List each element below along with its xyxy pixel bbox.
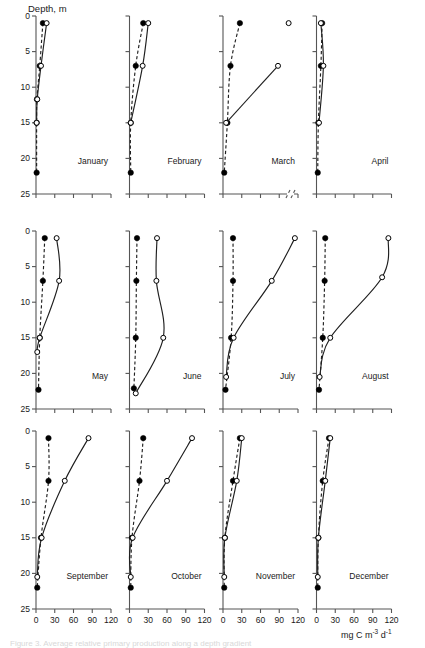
- panel-july: [219, 231, 298, 413]
- y-tick-label: 25: [21, 604, 30, 614]
- series-line-light-bottle: [37, 23, 47, 123]
- series-line-light-bottle: [136, 238, 164, 393]
- data-point-open: [276, 63, 281, 68]
- series-line-light-bottle: [320, 238, 389, 377]
- x-tick-label: 60: [349, 615, 358, 625]
- series-group-february: [128, 20, 151, 175]
- data-point-open: [128, 574, 133, 579]
- data-point-open: [292, 236, 297, 241]
- x-tick-label: 120: [104, 615, 118, 625]
- series-group-december: [315, 435, 333, 590]
- x-tick-label: 120: [384, 615, 398, 625]
- series-group-september: [35, 435, 91, 590]
- panel-november: [219, 431, 298, 613]
- series-line-dark-bottle: [224, 438, 240, 588]
- data-point-open: [321, 63, 326, 68]
- data-point-filled: [316, 387, 321, 392]
- series-line-light-bottle: [318, 438, 331, 577]
- x-tick-label: 30: [50, 615, 59, 625]
- data-point-filled: [237, 20, 242, 25]
- y-tick-label: 0: [25, 11, 30, 21]
- axis-break-gap: [287, 193, 294, 196]
- data-point-filled: [137, 478, 142, 483]
- data-point-open: [234, 478, 239, 483]
- data-point-filled: [46, 478, 51, 483]
- series-line-dark-bottle: [37, 438, 49, 588]
- y-tick-label: 20: [21, 568, 30, 578]
- x-tick-label: 30: [331, 615, 340, 625]
- series-group-october: [128, 435, 194, 590]
- data-point-open: [35, 97, 40, 102]
- data-point-open: [328, 436, 333, 441]
- data-point-filled: [40, 278, 45, 283]
- data-point-filled: [315, 585, 320, 590]
- panel-june: [126, 231, 205, 413]
- data-point-open: [86, 436, 91, 441]
- x-tick-label: 60: [69, 615, 78, 625]
- data-point-filled: [322, 278, 327, 283]
- data-point-filled: [42, 235, 47, 240]
- series-line-dark-bottle: [131, 438, 144, 588]
- series-group-march: [222, 20, 292, 175]
- x-tick-label: 90: [88, 615, 97, 625]
- x-tick-label: 90: [181, 615, 190, 625]
- data-point-open: [222, 535, 227, 540]
- data-point-open: [380, 275, 385, 280]
- x-tick-label: 60: [256, 615, 265, 625]
- series-line-light-bottle: [224, 438, 242, 577]
- x-tick-label: 120: [197, 615, 211, 625]
- data-point-open: [140, 63, 145, 68]
- data-point-open: [44, 21, 49, 26]
- y-tick-label: 15: [21, 332, 30, 342]
- series-line-dark-bottle: [319, 238, 325, 390]
- data-point-open: [224, 120, 229, 125]
- data-point-open: [146, 21, 151, 26]
- series-line-light-bottle: [226, 66, 278, 123]
- data-point-filled: [128, 585, 133, 590]
- series-line-dark-bottle: [39, 238, 45, 390]
- y-tick-label: 15: [21, 117, 30, 127]
- panel-december: [313, 431, 392, 613]
- y-tick-label: 0: [25, 226, 30, 236]
- panel-label-april: April: [371, 156, 388, 166]
- data-point-filled: [46, 435, 51, 440]
- panel-april: [313, 16, 392, 198]
- data-point-filled: [315, 170, 320, 175]
- y-tick-label: 5: [25, 461, 30, 471]
- multi-panel-depth-profile-chart: [0, 0, 425, 648]
- series-line-dark-bottle: [224, 23, 240, 173]
- data-point-filled: [134, 235, 139, 240]
- figure-caption: Figure 3. Average relative primary produ…: [10, 639, 420, 648]
- data-point-filled: [222, 170, 227, 175]
- data-point-filled: [134, 278, 139, 283]
- x-tick-label: 30: [144, 615, 153, 625]
- panel-august: [313, 231, 392, 413]
- data-point-filled: [133, 63, 138, 68]
- data-point-open: [231, 335, 236, 340]
- panel-label-august: August: [362, 371, 388, 381]
- data-point-open: [130, 535, 135, 540]
- series-group-august: [316, 235, 391, 392]
- data-point-filled: [128, 170, 133, 175]
- panel-label-november: November: [256, 571, 295, 581]
- data-point-filled: [141, 20, 146, 25]
- data-point-open: [190, 436, 195, 441]
- data-point-open: [161, 335, 166, 340]
- data-point-open: [154, 278, 159, 283]
- y-axis-label: Depth, m: [28, 3, 67, 14]
- data-point-open: [286, 21, 291, 26]
- series-line-light-bottle: [129, 438, 192, 577]
- y-tick-label: 25: [21, 404, 30, 414]
- data-point-filled: [228, 63, 233, 68]
- x-tick-label: 120: [291, 615, 305, 625]
- data-point-open: [323, 478, 328, 483]
- data-point-open: [317, 374, 322, 379]
- panel-label-september: September: [66, 571, 108, 581]
- y-tick-label: 25: [21, 189, 30, 199]
- panel-label-may: May: [92, 371, 108, 381]
- x-tick-label: 0: [34, 615, 39, 625]
- series-group-july: [223, 235, 298, 392]
- figure-panel-grid: Depth, m mg C m-3 d-1 051015202505101520…: [0, 0, 425, 648]
- data-point-open: [37, 335, 42, 340]
- data-point-open: [317, 120, 322, 125]
